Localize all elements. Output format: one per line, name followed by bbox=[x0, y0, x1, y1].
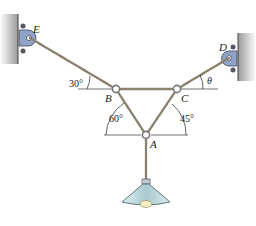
left-wall bbox=[0, 14, 18, 64]
angle-label-ba: 60° bbox=[109, 113, 123, 124]
ring-b bbox=[112, 85, 119, 92]
label-c: C bbox=[181, 92, 189, 104]
lamp bbox=[122, 179, 170, 208]
angle-label-theta: θ bbox=[207, 75, 212, 86]
label-b: B bbox=[105, 92, 112, 104]
angle-label-ca: 45° bbox=[180, 113, 194, 124]
angle-label-eb: 30° bbox=[69, 78, 83, 89]
equilibrium-diagram: E D B C A 30° θ 60° 45° bbox=[0, 0, 256, 226]
ring-c bbox=[173, 85, 180, 92]
label-a: A bbox=[149, 138, 157, 150]
cable-ca bbox=[146, 89, 177, 135]
reference-lines bbox=[78, 89, 218, 135]
cables bbox=[30, 38, 229, 180]
cable-ba bbox=[116, 89, 146, 135]
label-e: E bbox=[32, 23, 40, 35]
right-wall bbox=[238, 33, 256, 81]
ring-a bbox=[142, 131, 149, 138]
label-d: D bbox=[218, 41, 227, 53]
